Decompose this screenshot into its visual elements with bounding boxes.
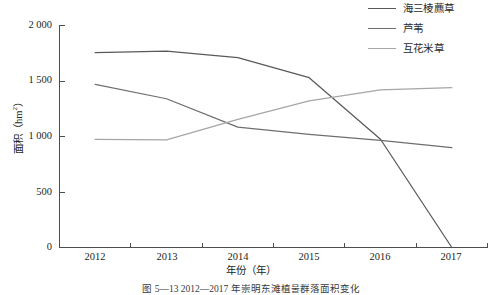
figure-caption: 图 5—13 2012—2017 年崇明东滩植물群落面积变化	[0, 281, 502, 295]
y-tick-label-2000: 2 000	[6, 19, 52, 30]
y-axis-title-superscript: 2	[11, 107, 19, 111]
y-axis-title-main: 面积（hm	[13, 111, 24, 154]
x-tick-label-2014: 2014	[208, 251, 268, 262]
y-tick-label-0: 0	[6, 241, 52, 252]
x-tick-label-2012: 2012	[65, 251, 125, 262]
series-line-1	[95, 84, 452, 147]
y-axis-title: 面积（hm2）	[10, 81, 25, 171]
y-tick-label-500: 500	[6, 186, 52, 197]
x-tick-label-2017: 2017	[421, 251, 481, 262]
x-axis-title: 年份（年）	[0, 262, 502, 277]
x-tick-label-2016: 2016	[350, 251, 410, 262]
axis-layer	[60, 25, 488, 248]
series-layer	[95, 51, 452, 247]
y-axis-title-end: ）	[13, 97, 24, 107]
x-tick-label-2013: 2013	[137, 251, 197, 262]
x-tick-label-2015: 2015	[279, 251, 339, 262]
series-line-0	[95, 51, 452, 247]
